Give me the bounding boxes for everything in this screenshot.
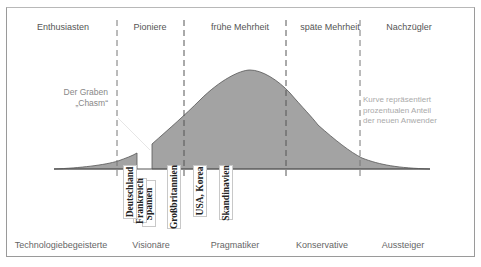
chasm-label: Der Graben „Chasm“	[40, 87, 108, 109]
adoption-curve	[0, 0, 481, 267]
curve-note-line1: Kurve repräsentiert	[363, 95, 437, 106]
segment-footer-aussteiger: Aussteiger	[382, 240, 425, 250]
country-label-usa-korea: USA, Korea	[193, 165, 207, 217]
segment-footer-konservative: Konservative	[296, 240, 348, 250]
curve-note-line3: der neuen Anwender	[363, 116, 437, 127]
country-label-deutschland: Deutschland	[123, 165, 137, 219]
segment-footer-pragmatiker: Pragmatiker	[211, 240, 260, 250]
chasm-label-line1: Der Graben	[40, 87, 108, 98]
segment-footer-technologiebegeisterte: Technologiebegeisterte	[15, 240, 108, 250]
country-text: Skandinavien	[221, 165, 231, 220]
country-label-skandinavien: Skandinavien	[219, 165, 233, 220]
segment-footer-visionaere: Visionäre	[132, 240, 169, 250]
country-text: Deutschland	[125, 167, 135, 218]
curve-note: Kurve repräsentiert prozentualen Anteil …	[363, 95, 437, 127]
country-text: USA, Korea	[195, 167, 205, 216]
chasm-pointer	[118, 118, 150, 150]
country-label-grossbritannien: Großbritannien	[167, 165, 181, 229]
curve-note-line2: prozentualen Anteil	[363, 106, 437, 117]
country-text: Großbritannien	[169, 165, 179, 229]
chasm-label-line2: „Chasm“	[40, 98, 108, 109]
